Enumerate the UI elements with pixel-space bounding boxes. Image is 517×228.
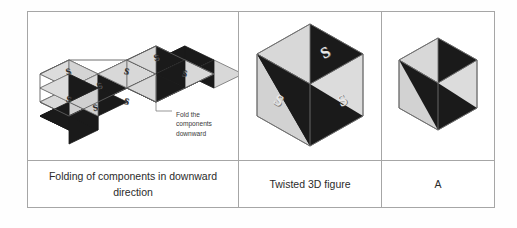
fold-annotation-line-2: components: [176, 119, 238, 128]
caption-answer-text: A: [434, 177, 441, 192]
caption-twisted-3d-text: Twisted 3D figure: [269, 177, 350, 192]
caption-twisted-3d: Twisted 3D figure: [239, 161, 381, 208]
fold-annotation: Fold the components downward: [176, 110, 238, 138]
caption-unfolded-net: Folding of components in downward direct…: [28, 161, 238, 208]
answer-figure-svg: [382, 12, 494, 160]
figure-table: S S: [27, 11, 495, 208]
twisted-3d-illustration: S S S S S S: [239, 12, 381, 160]
answer-figure-illustration: [382, 12, 494, 160]
twisted-3d-svg: S S S S S S: [239, 12, 381, 160]
caption-unfolded-net-text: Folding of components in downward direct…: [34, 169, 232, 199]
figure-page: S S: [0, 0, 517, 228]
unfolded-net-illustration: S S: [28, 12, 238, 160]
caption-answer: A: [382, 161, 494, 208]
fold-annotation-line-1: Fold the: [176, 110, 238, 119]
fold-annotation-line-3: downward: [176, 129, 238, 138]
